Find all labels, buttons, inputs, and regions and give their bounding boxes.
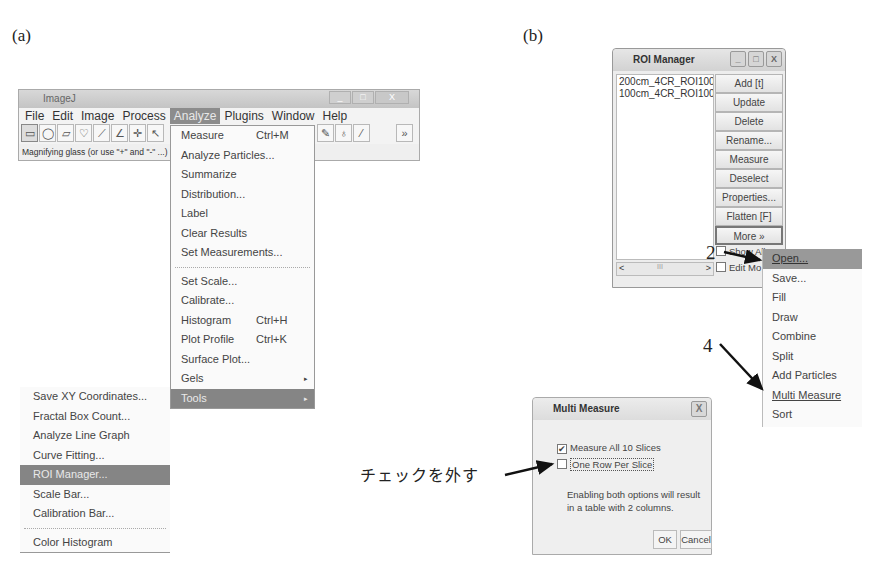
arrow-icon: [724, 252, 760, 260]
annotation-arrows: [0, 0, 893, 567]
arrow-icon: [505, 464, 552, 475]
arrow-icon: [720, 344, 762, 389]
